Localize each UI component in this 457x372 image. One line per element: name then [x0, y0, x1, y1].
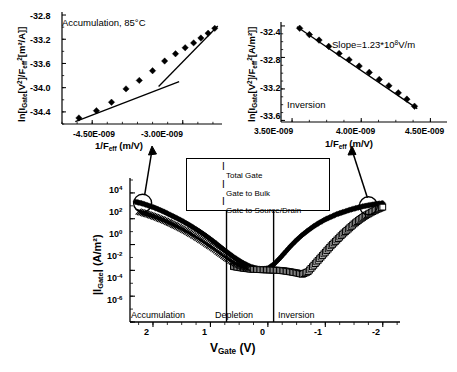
- legend-item-0-label: I Total Gate: [222, 162, 262, 180]
- accumulation-inset-data-point: [161, 58, 167, 64]
- gate-current-plot-ylabel: |IGate| (A/m²): [92, 234, 104, 295]
- inversion-inset-slope-annotation: Slope=1.23*108V/m: [332, 40, 415, 50]
- data-point-open-square: [380, 204, 386, 210]
- accumulation-inset-data-point: [182, 45, 188, 51]
- inversion-inset-xtick-1: 4.00E-009: [336, 127, 375, 136]
- accumulation-inset-ytick-2: -33.6: [30, 60, 51, 69]
- region-label-accumulation: Accumulation: [131, 311, 185, 320]
- accumulation-inset-ytick-0: -32.8: [30, 12, 51, 21]
- gate-current-plot-xtick-0: 2: [144, 328, 149, 337]
- inversion-inset-annotation: Inversion: [287, 100, 326, 110]
- inversion-inset-ytick-1: -32.8: [260, 56, 281, 65]
- gate-current-plot-xtick-1: 1: [202, 328, 207, 337]
- inversion-inset-ytick-2: -33.2: [260, 84, 281, 93]
- inversion-inset-ytick-3: -33.6: [260, 112, 281, 121]
- inversion-inset-ytick-0: -32.4: [260, 28, 281, 37]
- accumulation-inset-ylabel: ln[IGate[V2]/Feff2[m²/A]]: [17, 27, 28, 122]
- accumulation-inset-data-point: [136, 77, 142, 83]
- accumulation-inset-annotation: Accumulation, 85°C: [62, 18, 146, 28]
- gate-current-plot-ytick-3: 10-2: [107, 251, 122, 261]
- accumulation-inset-xtick-0: -4.50E-009: [73, 130, 115, 139]
- gate-current-plot-ytick-1: 102: [109, 207, 122, 217]
- gate-current-plot-ytick-2: 100: [109, 229, 122, 239]
- legend-item-2-label: I Gate to Source/Drain: [222, 197, 301, 215]
- accumulation-inset-data-point: [108, 99, 114, 105]
- gate-current-plot-xlabel: VGate (V): [210, 342, 256, 356]
- accumulation-inset-data-point: [190, 40, 196, 46]
- accumulation-inset-xlabel: 1/Feff (m/V): [95, 141, 143, 152]
- accumulation-callout-arrow: [145, 150, 152, 195]
- gate-current-plot-ytick-4: 10-4: [107, 273, 122, 283]
- gate-current-plot-xtick-3: -1: [314, 328, 322, 337]
- accumulation-inset-ytick-1: -33.2: [30, 36, 51, 45]
- accumulation-inset-ytick-3: -34.0: [30, 84, 51, 93]
- accumulation-inset-ytick-4: -34.4: [30, 108, 51, 117]
- accumulation-inset-data-point: [123, 86, 129, 92]
- gate-current-plot-ytick-0: 104: [109, 185, 122, 195]
- inversion-inset-xlabel: 1/Feff (m/V): [325, 139, 373, 150]
- figure-root: Accumulation, 85°C ln[IGate[V2]/Feff2[m²…: [0, 0, 457, 372]
- inversion-inset-xtick-0: 3.50E-009: [254, 127, 293, 136]
- inversion-inset-xtick-2: 4.50E-009: [405, 127, 444, 136]
- gate-current-plot-xtick-4: -2: [372, 328, 380, 337]
- inversion-inset-ylabel: ln[IGate[V2]/Feff2[A/m²]]: [247, 27, 258, 122]
- accumulation-inset-data-point: [172, 51, 178, 57]
- accumulation-inset-fit-line: [159, 26, 218, 87]
- accumulation-callout-arrowhead: [149, 146, 157, 155]
- gate-current-plot-xtick-2: 0: [260, 328, 265, 337]
- legend-item-1-label: I Gate to Bulk: [222, 180, 270, 198]
- accumulation-inset-data-point: [149, 68, 155, 74]
- inversion-callout-arrow: [352, 150, 367, 198]
- gate-current-plot-ytick-5: 10-6: [107, 295, 122, 305]
- region-label-inversion: Inversion: [278, 311, 315, 320]
- region-label-depletion: Depletion: [215, 311, 253, 320]
- accumulation-inset-xtick-1: -3.00E-009: [141, 130, 183, 139]
